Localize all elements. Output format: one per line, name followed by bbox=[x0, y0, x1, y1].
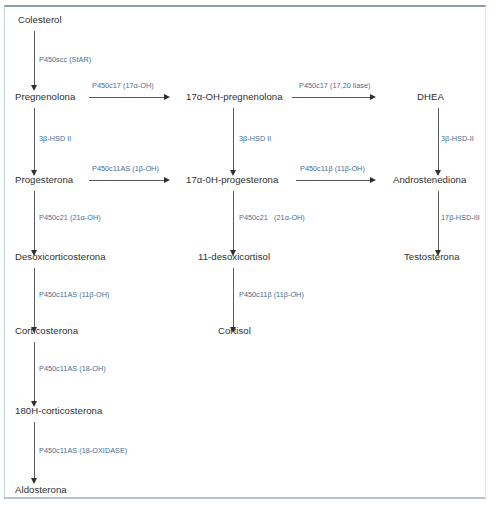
node-desoxicorticosterona: Desoxicorticosterona bbox=[15, 251, 106, 262]
enzyme-label-3bhsd2-col1: 3β-HSD II bbox=[39, 134, 71, 143]
enzyme-label-p450c11as-1boh: P450c11AS (1β-OH) bbox=[92, 164, 159, 173]
arrow-dhea-to-androstenediona bbox=[434, 108, 443, 178]
arrow-17oh-progesterona-to-11-desoxicortisol bbox=[229, 191, 238, 258]
enzyme-label-p450c11as-18oxidase: P450c11AS (18-OXIDASE) bbox=[39, 446, 127, 455]
node-17oh-pregnenolona: 17α-OH-pregnenolona bbox=[186, 91, 283, 102]
arrow-17oh-pregnenolona-to-17oh-progesterona bbox=[229, 108, 238, 178]
node-dhea: DHEA bbox=[417, 91, 444, 102]
enzyme-label-p450c17-1720-liase: P450c17 (17,20 liase) bbox=[299, 81, 370, 90]
node-pregnenolona: Pregnenolona bbox=[15, 91, 75, 102]
enzyme-label-p450c11as-11boh: P450c11AS (11β-OH) bbox=[39, 290, 109, 299]
enzyme-label-3bhsd2-col4: 3β-HSD-II bbox=[441, 134, 474, 143]
node-progesterona: Progesterona bbox=[15, 174, 73, 185]
node-androstenediona: Androstenediona bbox=[393, 174, 466, 185]
enzyme-label-p450c21-col1: P450c21 (21α-OH) bbox=[39, 213, 101, 222]
arrow-progesterona-to-17oh-progesterona bbox=[89, 176, 171, 185]
enzyme-label-p450c11b-androstenediona: P450c11β (11β-OH) bbox=[300, 164, 365, 173]
node-cortisol: Cortisol bbox=[218, 325, 251, 336]
enzyme-label-17bhsd3: 17β-HSD-III bbox=[441, 213, 480, 222]
arrow-corticosterona-to-18oh-corticosterona bbox=[30, 342, 39, 409]
enzyme-label-3bhsd2-col2: 3β-HSD II bbox=[239, 134, 271, 143]
node-colesterol: Colesterol bbox=[18, 14, 62, 25]
arrow-pregnenolona-to-progesterona bbox=[30, 108, 39, 178]
steroidogenesis-diagram: Colesterol P450scc (StAR) Pregnenolona 3… bbox=[0, 0, 500, 510]
arrow-pregnenolona-to-17oh-pregnenolona bbox=[89, 93, 171, 102]
node-testosterona: Testosterona bbox=[404, 251, 460, 262]
enzyme-label-p450c11b-cortisol: P450c11β (11β-OH) bbox=[239, 290, 304, 299]
enzyme-label-p450scc: P450scc (StAR) bbox=[39, 55, 91, 64]
arrow-progesterona-to-desoxicorticosterona bbox=[30, 191, 39, 258]
arrow-17oh-progesterona-to-androstenediona bbox=[296, 176, 377, 185]
arrow-colesterol-to-pregnenolona bbox=[30, 31, 39, 91]
node-17oh-progesterona: 17α-0H-progesterona bbox=[186, 174, 278, 185]
enzyme-label-p450c11as-18oh: P450c11AS (18-OH) bbox=[39, 364, 106, 373]
arrow-18oh-corticosterona-to-aldosterona bbox=[30, 422, 39, 486]
node-18oh-corticosterona: 180H-corticosterona bbox=[15, 405, 102, 416]
enzyme-label-p450c21-col2: P450c21 (21α-OH) bbox=[239, 213, 305, 222]
node-corticosterona: Corticosterona bbox=[15, 325, 78, 336]
node-11-desoxicortisol: 11-desoxicortisol bbox=[198, 251, 270, 262]
enzyme-label-p450c17-17aoh: P450c17 (17α-OH) bbox=[92, 81, 154, 90]
arrow-17oh-pregnenolona-to-dhea bbox=[292, 93, 377, 102]
arrow-androstenediona-to-testosterona bbox=[434, 191, 443, 258]
node-aldosterona: Aldosterona bbox=[15, 484, 67, 495]
